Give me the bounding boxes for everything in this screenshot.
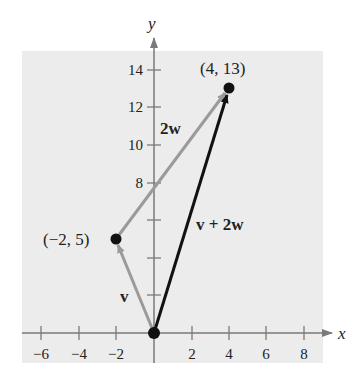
svg-text:−2: −2 [108,346,124,362]
svg-text:−4: −4 [71,346,87,362]
point-label-4-13: (4, 13) [200,59,245,78]
x-axis-label: x [337,324,346,343]
vector-label-2w: 2w [160,119,182,138]
y-axis-label: y [146,14,156,33]
svg-text:2: 2 [188,346,196,362]
svg-text:4: 4 [225,346,233,362]
svg-text:6: 6 [262,346,270,362]
vector-label-v-plus-2w: v + 2w [196,215,244,234]
point-4-13 [224,83,235,94]
point-label-neg2-5: (−2, 5) [43,230,89,249]
point-origin [148,327,160,339]
vector-label-v: v [120,287,129,306]
svg-text:12: 12 [128,99,143,115]
svg-text:10: 10 [128,137,143,153]
svg-text:−6: −6 [33,346,49,362]
svg-text:8: 8 [300,346,308,362]
point-neg2-5 [111,234,122,245]
plot-background [22,51,323,363]
svg-text:14: 14 [128,62,144,78]
vector-diagram: x y −6 −4 −2 2 4 6 8 14 12 10 8 [0,0,354,381]
svg-text:8: 8 [136,175,144,191]
